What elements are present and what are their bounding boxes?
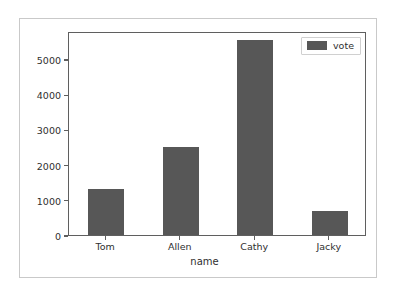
plot-area: vote (68, 32, 366, 236)
y-tick-mark (64, 59, 68, 60)
y-tick-label: 2000 (21, 160, 61, 171)
y-tick-label: 4000 (21, 90, 61, 101)
legend-swatch-vote (307, 41, 327, 50)
bar-jacky (312, 211, 348, 235)
x-tick-mark (179, 236, 180, 240)
x-tick-label-jacky: Jacky (316, 241, 341, 252)
figure-canvas: 010002000300040005000 TomAllenCathyJacky… (0, 0, 409, 303)
x-tick-mark (105, 236, 106, 240)
y-tick-mark (64, 130, 68, 131)
legend-label-vote: vote (333, 41, 354, 51)
y-tick-label: 5000 (21, 55, 61, 66)
bar-series-vote (69, 33, 365, 235)
y-tick-mark (64, 165, 68, 166)
y-tick-label: 1000 (21, 195, 61, 206)
y-tick-mark (64, 95, 68, 96)
legend[interactable]: vote (301, 37, 361, 55)
x-tick-label-allen: Allen (168, 241, 192, 252)
x-tick-mark (328, 236, 329, 240)
y-tick-mark (64, 235, 68, 236)
y-tick-mark (64, 200, 68, 201)
bar-cathy (237, 40, 273, 235)
bar-tom (88, 189, 124, 235)
bar-allen (163, 147, 199, 235)
x-axis-label: name (0, 256, 409, 267)
x-tick-label-tom: Tom (96, 241, 115, 252)
y-tick-label: 3000 (21, 125, 61, 136)
x-tick-label-cathy: Cathy (240, 241, 268, 252)
x-tick-mark (254, 236, 255, 240)
y-tick-label: 0 (21, 231, 61, 242)
